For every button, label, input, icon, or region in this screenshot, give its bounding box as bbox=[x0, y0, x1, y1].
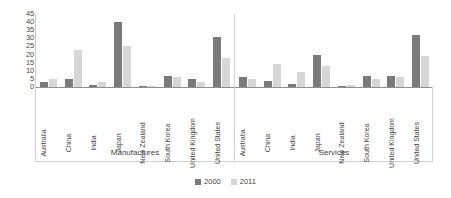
bar-2011-south-korea bbox=[372, 79, 380, 87]
bar-2011-china bbox=[273, 64, 281, 87]
category-label-wrap: United Kingdom bbox=[384, 89, 408, 143]
bar-group-india bbox=[288, 14, 305, 87]
legend-label-2011: 2011 bbox=[240, 177, 256, 186]
bar-group-united-kingdom bbox=[387, 14, 404, 87]
bar-group-united-kingdom bbox=[188, 14, 205, 87]
bar-group-india bbox=[89, 14, 106, 87]
category-label-new-zealand: New Zealand bbox=[338, 122, 346, 163]
category-label-wrap: New Zealand bbox=[135, 89, 159, 143]
bar-2011-china bbox=[74, 50, 82, 87]
bar-2011-india bbox=[297, 72, 305, 87]
bar-2000-united-kingdom bbox=[387, 76, 395, 87]
bar-2000-united-states bbox=[213, 37, 221, 87]
bar-group-china bbox=[264, 14, 281, 87]
bar-group-japan bbox=[313, 14, 330, 87]
bar-2000-united-states bbox=[412, 35, 420, 87]
y-axis-tick-label: 0 bbox=[30, 83, 34, 91]
bar-group-new-zealand bbox=[139, 14, 156, 87]
bar-group-united-states bbox=[412, 14, 429, 87]
category-label-wrap: Japan bbox=[111, 89, 135, 143]
bar-group-china bbox=[65, 14, 82, 87]
bar-2000-japan bbox=[313, 55, 321, 87]
category-label-wrap: China bbox=[260, 89, 284, 143]
bar-2011-united-kingdom bbox=[396, 77, 404, 87]
bar-2011-japan bbox=[322, 66, 330, 87]
category-label-wrap: United States bbox=[210, 89, 234, 143]
bar-group-japan bbox=[114, 14, 131, 87]
panel-title-services: Services bbox=[235, 148, 433, 157]
category-label-wrap: Australia bbox=[36, 89, 60, 143]
y-axis: 454035302520151050 bbox=[12, 14, 34, 88]
panel-services-bars bbox=[235, 14, 433, 87]
category-label-united-states: United States bbox=[413, 122, 421, 164]
legend-item-2000: 2000 bbox=[195, 177, 221, 186]
legend-label-2000: 2000 bbox=[204, 177, 221, 186]
category-label-wrap: China bbox=[61, 89, 85, 143]
category-label-wrap: South Korea bbox=[359, 89, 383, 143]
panel-title-manufactures: Manufactures bbox=[36, 148, 234, 157]
panel-manufactures-bars bbox=[36, 14, 234, 87]
bar-2000-australia bbox=[239, 77, 247, 87]
category-labels-manufactures: AustraliaChinaIndiaJapanNew ZealandSouth… bbox=[36, 89, 234, 143]
bar-2000-united-kingdom bbox=[188, 79, 196, 87]
bar-2000-china bbox=[65, 79, 73, 87]
category-label-wrap: United States bbox=[409, 89, 433, 143]
bar-group-australia bbox=[239, 14, 256, 87]
bar-group-new-zealand bbox=[338, 14, 355, 87]
category-labels-services: AustraliaChinaIndiaJapanNew ZealandSouth… bbox=[235, 89, 433, 143]
panel-divider bbox=[234, 14, 235, 88]
bar-2000-south-korea bbox=[363, 76, 371, 87]
bar-2011-united-states bbox=[222, 58, 230, 87]
bar-2011-japan bbox=[123, 46, 131, 87]
category-label-wrap: Australia bbox=[235, 89, 259, 143]
bar-group-united-states bbox=[213, 14, 230, 87]
legend-item-2011: 2011 bbox=[231, 177, 256, 186]
grouped-bar-chart: 454035302520151050 AustraliaChinaIndiaJa… bbox=[0, 0, 451, 198]
bar-2011-united-states bbox=[421, 56, 429, 87]
category-label-wrap: India bbox=[86, 89, 110, 143]
chart-legend: 2000 2011 bbox=[0, 177, 451, 186]
y-axis-tick-label: 20 bbox=[26, 51, 34, 59]
category-label-united-kingdom: United Kingdom bbox=[189, 118, 197, 168]
bar-2011-australia bbox=[49, 79, 57, 87]
category-label-wrap: India bbox=[285, 89, 309, 143]
category-label-wrap: New Zealand bbox=[334, 89, 358, 143]
category-label-new-zealand: New Zealand bbox=[139, 122, 147, 163]
category-label-wrap: Japan bbox=[310, 89, 334, 143]
bar-2000-japan bbox=[114, 22, 122, 87]
legend-swatch-2000-icon bbox=[195, 179, 201, 185]
bar-group-south-korea bbox=[363, 14, 380, 87]
bar-2000-south-korea bbox=[164, 76, 172, 87]
category-label-united-states: United States bbox=[214, 122, 222, 164]
bar-2011-australia bbox=[248, 79, 256, 87]
category-label-wrap: United Kingdom bbox=[185, 89, 209, 143]
legend-swatch-2011-icon bbox=[231, 179, 237, 185]
y-axis-tick-label: 25 bbox=[26, 42, 34, 50]
category-label-wrap: South Korea bbox=[160, 89, 184, 143]
bar-2011-south-korea bbox=[173, 77, 181, 87]
bar-group-south-korea bbox=[164, 14, 181, 87]
bar-group-australia bbox=[40, 14, 57, 87]
category-label-united-kingdom: United Kingdom bbox=[388, 118, 396, 168]
